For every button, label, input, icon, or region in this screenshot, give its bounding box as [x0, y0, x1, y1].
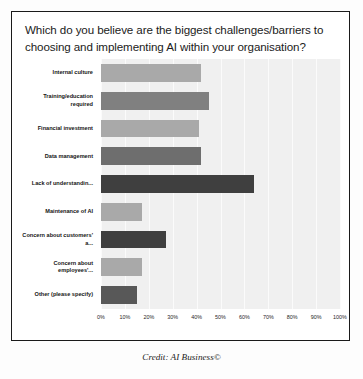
bar — [101, 175, 254, 193]
category-label: Internal culture — [22, 69, 97, 76]
bar-track — [101, 87, 340, 115]
bar-row: Concern about employees'... — [22, 253, 340, 281]
category-label: Other (please specify) — [22, 291, 97, 298]
bar-track — [101, 253, 340, 281]
bar-row: Other (please specify) — [22, 281, 340, 309]
bar-track — [101, 281, 340, 309]
x-axis-tick-label: 30% — [167, 314, 178, 320]
bar-track — [101, 59, 340, 87]
category-label: Concern about employees'... — [22, 260, 97, 275]
category-label: Maintenance of AI — [22, 208, 97, 215]
bar-row: Maintenance of AI — [22, 198, 340, 226]
x-axis-tick-label: 100% — [333, 314, 347, 320]
bar — [101, 147, 201, 165]
bar — [101, 231, 166, 249]
bar-rows: Internal cultureTraining/education requi… — [22, 59, 340, 309]
category-label: Lack of understandin... — [22, 180, 97, 187]
x-axis: 0%10%20%30%40%50%60%70%80%90%100% — [101, 309, 340, 331]
bar-track — [101, 226, 340, 254]
bar-track — [101, 115, 340, 143]
gridline — [340, 59, 341, 309]
chart-figure: Which do you believe are the biggest cha… — [0, 0, 363, 379]
bar-row: Lack of understandin... — [22, 170, 340, 198]
bar-track — [101, 198, 340, 226]
bar-row: Data management — [22, 142, 340, 170]
plot-area: Internal cultureTraining/education requi… — [22, 59, 340, 331]
bar-row: Training/education required — [22, 87, 340, 115]
x-axis-tick-label: 40% — [191, 314, 202, 320]
bar — [101, 120, 199, 138]
bar — [101, 92, 209, 110]
x-axis-tick-label: 20% — [143, 314, 154, 320]
bar-track — [101, 142, 340, 170]
bar-track — [101, 170, 340, 198]
bar-row: Financial investment — [22, 115, 340, 143]
chart-caption: Credit: AI Business© — [0, 352, 363, 362]
chart-card: Which do you believe are the biggest cha… — [11, 11, 350, 341]
category-label: Training/education required — [22, 93, 97, 108]
x-axis-tick-label: 10% — [119, 314, 130, 320]
category-label: Financial investment — [22, 125, 97, 132]
bar — [101, 203, 142, 221]
bar — [101, 258, 142, 276]
x-axis-tick-label: 80% — [287, 314, 298, 320]
x-axis-tick-label: 70% — [263, 314, 274, 320]
bar-row: Internal culture — [22, 59, 340, 87]
category-label: Concern about customers' a... — [22, 232, 97, 247]
chart-title: Which do you believe are the biggest cha… — [25, 22, 337, 55]
x-axis-tick-label: 0% — [97, 314, 105, 320]
category-label: Data management — [22, 153, 97, 160]
x-axis-tick-label: 50% — [215, 314, 226, 320]
bar-row: Concern about customers' a... — [22, 226, 340, 254]
bar — [101, 64, 201, 82]
x-axis-tick-label: 90% — [311, 314, 322, 320]
x-axis-tick-label: 60% — [239, 314, 250, 320]
bar — [101, 286, 137, 304]
